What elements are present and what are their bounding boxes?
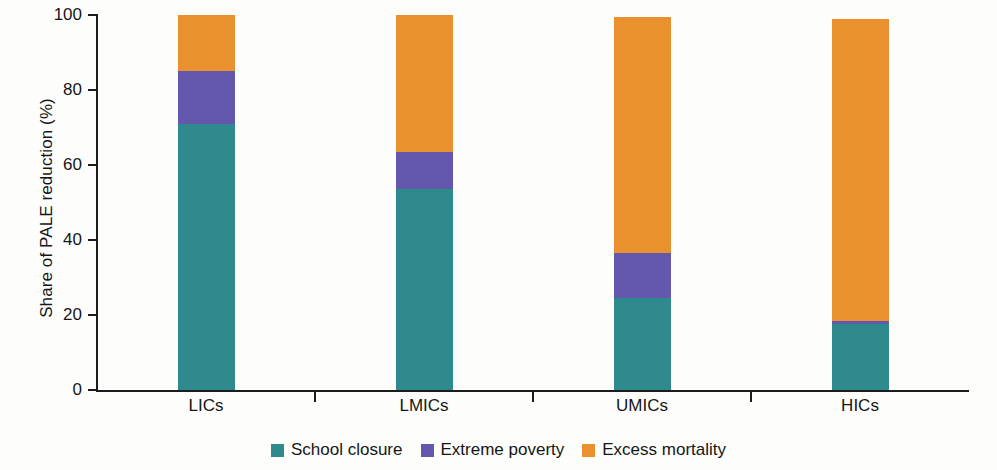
y-axis-tick — [88, 239, 97, 241]
y-axis-tick — [88, 389, 97, 391]
bar-segment — [832, 321, 889, 325]
bar-segment — [396, 15, 453, 152]
chart-legend: School closureExtreme povertyExcess mort… — [0, 440, 997, 460]
bar-group — [396, 15, 453, 390]
y-axis-tick-label: 100 — [36, 5, 82, 25]
legend-item[interactable]: Extreme poverty — [421, 440, 565, 460]
y-axis-tick — [88, 164, 97, 166]
y-axis-tick-label: 60 — [36, 155, 82, 175]
bar-segment — [614, 17, 671, 253]
y-axis-tick-label: 40 — [36, 230, 82, 250]
bar-group — [832, 15, 889, 390]
y-axis-tick-label: 0 — [36, 380, 82, 400]
bar-segment — [178, 71, 235, 124]
y-axis-tick — [88, 14, 97, 16]
legend-item[interactable]: Excess mortality — [582, 440, 726, 460]
legend-swatch-icon — [582, 444, 595, 457]
bar-segment — [614, 253, 671, 298]
bar-group — [614, 15, 671, 390]
y-axis-tick — [88, 89, 97, 91]
y-axis-title: Share of PALE reduction (%) — [37, 18, 57, 398]
x-axis-tick — [314, 392, 316, 402]
chart-figure: Share of PALE reduction (%) 020406080100… — [0, 0, 997, 470]
x-axis-tick-label: LMICs — [399, 396, 448, 416]
legend-item-label: School closure — [291, 440, 403, 460]
legend-swatch-icon — [271, 444, 284, 457]
bar-segment — [396, 189, 453, 390]
x-axis-tick-label: LICs — [189, 396, 224, 416]
legend-item[interactable]: School closure — [271, 440, 403, 460]
y-axis-tick-label: 20 — [36, 305, 82, 325]
bar-segment — [396, 152, 453, 190]
legend-item-label: Extreme poverty — [441, 440, 565, 460]
y-axis-tick-label: 80 — [36, 80, 82, 100]
bar-segment — [614, 298, 671, 390]
y-axis-tick — [88, 314, 97, 316]
x-axis-tick-label: HICs — [841, 396, 879, 416]
x-axis-tick — [750, 392, 752, 402]
bar-segment — [178, 15, 235, 71]
legend-item-label: Excess mortality — [602, 440, 726, 460]
bar-group — [178, 15, 235, 390]
bar-segment — [178, 124, 235, 390]
bar-segment — [832, 19, 889, 321]
x-axis-tick-label: UMICs — [616, 396, 668, 416]
x-axis-tick — [532, 392, 534, 402]
bar-segment — [832, 324, 889, 390]
y-axis-line — [96, 14, 98, 391]
legend-swatch-icon — [421, 444, 434, 457]
